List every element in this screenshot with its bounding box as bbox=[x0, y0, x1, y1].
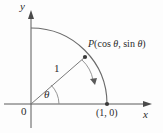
direction-arc bbox=[82, 60, 93, 80]
point-p-cos: cos bbox=[97, 38, 113, 49]
angle-arc bbox=[51, 85, 59, 104]
arrow-right-icon bbox=[143, 101, 152, 107]
x-axis-label: x bbox=[143, 109, 148, 120]
point-one-zero-label: (1, 0) bbox=[96, 108, 118, 118]
y-axis-label: y bbox=[20, 1, 25, 12]
angle-theta-label: θ bbox=[44, 89, 49, 100]
unit-circle-figure: y x 0 θ 1 P(cos θ, sin θ) (1, 0) bbox=[0, 0, 163, 133]
point-p-marker bbox=[83, 55, 87, 59]
point-p-sin: sin bbox=[123, 38, 137, 49]
radius-length-label: 1 bbox=[54, 63, 60, 74]
point-one-zero-marker bbox=[105, 102, 109, 106]
point-p-label: P(cos θ, sin θ) bbox=[88, 39, 146, 49]
arrow-up-icon bbox=[28, 10, 34, 19]
arrow-head-icon bbox=[90, 78, 97, 85]
origin-label: 0 bbox=[21, 106, 27, 117]
point-p-close-paren: ) bbox=[142, 38, 145, 49]
